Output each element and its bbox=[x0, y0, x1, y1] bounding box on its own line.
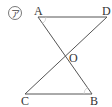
label-c: C bbox=[21, 94, 29, 107]
label-b: B bbox=[90, 94, 98, 107]
label-d: D bbox=[102, 4, 111, 18]
label-a: A bbox=[34, 4, 43, 18]
segment-ab bbox=[38, 17, 92, 94]
geometry-figure: ア A D O C B bbox=[0, 0, 112, 107]
marker-label: ア bbox=[11, 9, 20, 19]
angle-arc-b bbox=[84, 88, 87, 95]
segments bbox=[25, 17, 107, 94]
angle-arc-a bbox=[43, 17, 46, 24]
label-o: O bbox=[69, 51, 78, 65]
figure-marker: ア bbox=[9, 7, 22, 20]
segment-dc bbox=[25, 17, 107, 94]
